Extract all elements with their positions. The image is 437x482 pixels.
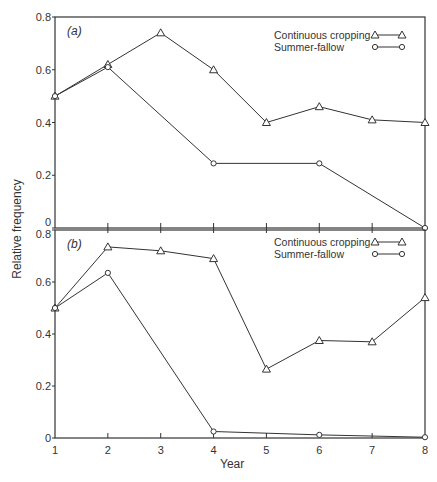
legend-label: Summer-fallow (274, 41, 344, 53)
x-tick-label: 6 (316, 444, 322, 456)
circle-marker (211, 161, 216, 166)
series-line (55, 33, 425, 123)
circle-marker (105, 65, 110, 70)
panel-b: 00.20.40.60.812345678(b)Continuous cropp… (36, 228, 429, 456)
triangle-marker (421, 294, 429, 301)
x-axis-label: Year (220, 457, 244, 471)
y-tick-label: 0.2 (36, 169, 51, 181)
legend-circle-icon (372, 251, 377, 256)
circle-marker (317, 432, 322, 437)
x-tick-label: 3 (158, 444, 164, 456)
panel-label: (a) (67, 24, 82, 38)
triangle-marker (210, 66, 218, 73)
x-tick-label: 5 (263, 444, 269, 456)
y-tick-label: 0.2 (36, 380, 51, 392)
circle-marker (52, 305, 57, 310)
y-tick-label: 0.6 (36, 64, 51, 76)
circle-marker (317, 161, 322, 166)
x-tick-label: 8 (422, 444, 428, 456)
legend-label: Continuous cropping (274, 29, 370, 41)
y-tick-label: 0.8 (36, 11, 51, 23)
legend-circle-icon (372, 44, 377, 49)
y-tick-label: 0 (45, 432, 51, 444)
circle-marker (422, 435, 427, 440)
y-tick-label: 0.8 (36, 228, 51, 240)
circle-marker (211, 429, 216, 434)
legend-circle-icon (399, 251, 404, 256)
triangle-marker (315, 103, 323, 110)
x-tick-label: 4 (211, 444, 217, 456)
triangle-marker (315, 337, 323, 344)
legend-label: Summer-fallow (274, 248, 344, 260)
series-line (55, 67, 425, 228)
series-line (55, 247, 425, 369)
x-tick-label: 7 (369, 444, 375, 456)
legend-label: Continuous cropping (274, 236, 370, 248)
y-tick-label: 0.6 (36, 276, 51, 288)
series-line (55, 273, 425, 437)
triangle-marker (157, 29, 165, 36)
plot-frame (55, 230, 425, 438)
y-tick-label: 0 (45, 216, 51, 228)
x-tick-label: 2 (105, 444, 111, 456)
panel-a: 00.20.40.60.8(a)Continuous croppingSumme… (36, 11, 429, 233)
chart-figure: 00.20.40.60.8(a)Continuous croppingSumme… (0, 0, 437, 482)
y-axis-label: Relative frequency (10, 174, 24, 284)
triangle-marker (262, 365, 270, 372)
panel-label: (b) (67, 237, 82, 251)
y-tick-label: 0.4 (36, 117, 51, 129)
circle-marker (52, 94, 57, 99)
x-tick-label: 1 (52, 444, 58, 456)
triangle-marker (104, 243, 112, 250)
circle-marker (105, 270, 110, 275)
legend-circle-icon (399, 44, 404, 49)
y-tick-label: 0.4 (36, 328, 51, 340)
